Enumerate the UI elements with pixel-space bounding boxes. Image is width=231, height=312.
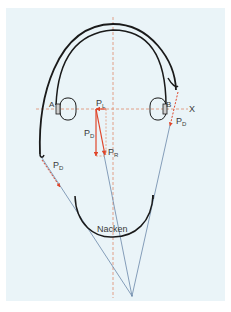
label-a: A (49, 100, 55, 109)
label-p-d-right: PD (176, 116, 187, 127)
headphone-force-diagram: A B X PL PD PR PD PD Nacken (0, 0, 231, 312)
label-x-axis: X (189, 104, 195, 114)
label-neck: Nacken (97, 224, 128, 234)
headband-left-hook (40, 154, 44, 157)
force-vectors-center (96, 109, 106, 156)
label-p-r: PR (108, 147, 119, 158)
label-p-l: PL (96, 98, 106, 109)
label-p-d-center: PD (84, 128, 95, 139)
label-b: B (166, 100, 171, 109)
headband-outer (40, 24, 176, 154)
label-p-d-left: PD (53, 160, 64, 171)
apex-point (131, 295, 133, 297)
